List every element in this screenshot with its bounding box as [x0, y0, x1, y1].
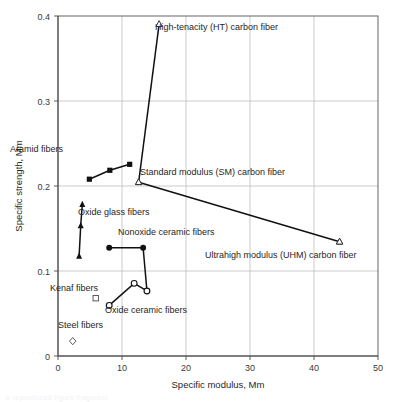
series-kenaf-fibers	[93, 296, 98, 301]
x-tick-label: 40	[309, 363, 319, 373]
data-point-marker	[140, 245, 146, 251]
y-tick-label: 0.3	[37, 97, 50, 107]
y-tick-label: 0.1	[37, 267, 50, 277]
y-tick-label: 0.2	[37, 182, 50, 192]
data-point-marker	[93, 296, 98, 301]
annotation-oxide-glass: Oxide glass fibers	[78, 207, 150, 217]
x-tick-label: 20	[181, 363, 191, 373]
data-point-marker	[107, 168, 112, 173]
data-point-marker	[87, 177, 92, 182]
y-tickmarks	[54, 16, 58, 356]
data-point-marker	[131, 280, 137, 286]
x-tick-labels: 0 10 20 30 40 50	[55, 363, 383, 373]
x-tick-label: 30	[245, 363, 255, 373]
y-tick-label: 0	[45, 352, 50, 362]
annotation-aramid: Aramid fibers	[10, 144, 64, 154]
annotation-steel: Steel fibers	[58, 320, 104, 330]
x-tick-label: 0	[55, 363, 60, 373]
figure-container: 0.4 0.3 0.2 0.1 0 0 10 20 30 40 50 Speci…	[0, 0, 397, 402]
x-tick-label: 50	[373, 363, 383, 373]
y-tick-label: 0.4	[37, 12, 50, 22]
x-axis-title: Specific modulus, Mm	[172, 379, 265, 390]
x-tickmarks	[58, 356, 378, 360]
data-point-marker	[106, 245, 112, 251]
scatter-plot: 0.4 0.3 0.2 0.1 0 0 10 20 30 40 50 Speci…	[0, 0, 397, 402]
annotation-kenaf: Kenaf fibers	[50, 283, 99, 293]
x-tick-label: 10	[117, 363, 127, 373]
annotation-oxide-ceramic: Oxide ceramic fibers	[105, 305, 188, 315]
annotation-ht: High-tenacity (HT) carbon fiber	[155, 22, 278, 32]
faint-caption: a reproduced figure fragment	[6, 394, 107, 401]
annotation-uhm: Ultrahigh modulus (UHM) carbon fiber	[205, 250, 357, 260]
data-point-marker	[127, 162, 132, 167]
annotation-nonoxide: Nonoxide ceramic fibers	[118, 227, 215, 237]
data-point-marker	[144, 288, 150, 294]
y-tick-labels: 0.4 0.3 0.2 0.1 0	[37, 12, 50, 362]
annotation-sm: Standard modulus (SM) carbon fiber	[140, 167, 285, 177]
